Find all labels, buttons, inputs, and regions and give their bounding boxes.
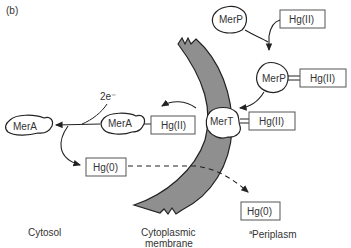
merp-bound-label: MerP bbox=[262, 73, 286, 84]
hg2-merp-label: Hg(II) bbox=[310, 73, 335, 84]
transfer-to-mert-arrow bbox=[240, 92, 264, 108]
hg0-cytosol-label: Hg(0) bbox=[93, 162, 118, 173]
region-periplasm: Periplasm bbox=[252, 229, 296, 240]
mert-label: MerT bbox=[210, 116, 233, 127]
hg0-periplasm-label: Hg(0) bbox=[247, 206, 272, 217]
mera-free-label: MerA bbox=[13, 121, 37, 132]
figure-label: (b) bbox=[6, 5, 18, 16]
region-cytosol: Cytosol bbox=[28, 227, 61, 238]
region-membrane-line2: membrane bbox=[145, 238, 193, 248]
hg2-top-label: Hg(II) bbox=[289, 14, 314, 25]
reduction-arrow bbox=[56, 124, 100, 125]
mera-bound-label: MerA bbox=[108, 118, 132, 129]
region-membrane-line1: Cytoplasmic bbox=[141, 227, 195, 238]
hg0-release-arrow bbox=[61, 126, 80, 165]
merp-free-label: MerP bbox=[219, 14, 243, 25]
hg2-mera-label: Hg(II) bbox=[161, 120, 186, 131]
transfer-to-mera-arrow bbox=[162, 102, 196, 108]
hg2-mert-label: Hg(II) bbox=[259, 116, 284, 127]
mer-operon-diagram: (b) MerP Hg(II) MerP Hg(II) MerT Hg(II) … bbox=[0, 0, 351, 248]
merp-binding-arrow bbox=[269, 20, 280, 50]
electrons-label: 2e⁻ bbox=[100, 91, 116, 102]
